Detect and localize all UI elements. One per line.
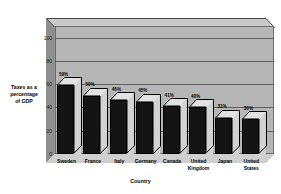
bar-side-face [127, 93, 135, 154]
bar-front-face [163, 106, 180, 154]
bar-front-face [242, 119, 259, 154]
x-label-united-states: UnitedStates [235, 158, 268, 171]
bar-value-label: 30% [244, 107, 253, 112]
bars-container: 59%50%46%45%41%40%31%30% [46, 18, 274, 164]
bar-sweden: 59% [57, 85, 74, 154]
bar-side-face [180, 99, 188, 154]
bar-germany: 45% [136, 102, 153, 154]
bar-value-label: 45% [138, 89, 147, 94]
bar-side-face [100, 89, 108, 154]
bar-chart: 020406080100 Taxes as a percentage of GD… [0, 0, 281, 194]
bar-side-face [153, 95, 161, 154]
y-axis-title: Taxes as a percentage of GDP [2, 84, 46, 105]
x-axis-categories: SwedenFranceItalyGermanyCanadaUnitedKing… [46, 158, 281, 180]
bar-front-face [83, 96, 100, 154]
x-axis-title: Country [0, 178, 281, 184]
bar-canada: 41% [163, 106, 180, 154]
x-label-line: States [235, 165, 268, 172]
bar-value-label: 46% [112, 88, 121, 93]
bar-value-label: 41% [165, 94, 174, 99]
bar-value-label: 59% [59, 73, 68, 78]
bar-side-face [74, 78, 82, 154]
bar-front-face [110, 100, 127, 154]
bar-value-label: 50% [85, 83, 94, 88]
bar-front-face [215, 118, 232, 154]
bar-france: 50% [83, 96, 100, 154]
y-axis-title-line-1: Taxes as a [2, 84, 46, 91]
y-axis-title-line-3: of GDP [2, 98, 46, 105]
bar-value-label: 40% [191, 95, 200, 100]
bar-japan: 31% [215, 118, 232, 154]
bar-united-states: 30% [242, 119, 259, 154]
y-axis-title-line-2: percentage [2, 91, 46, 98]
bar-front-face [57, 85, 74, 154]
x-label-line: Kingdom [182, 165, 215, 172]
bar-side-face [206, 100, 214, 154]
bar-united-kingdom: 40% [189, 107, 206, 154]
bar-italy: 46% [110, 100, 127, 154]
bar-front-face [189, 107, 206, 154]
bar-value-label: 31% [217, 105, 226, 110]
bar-front-face [136, 102, 153, 154]
